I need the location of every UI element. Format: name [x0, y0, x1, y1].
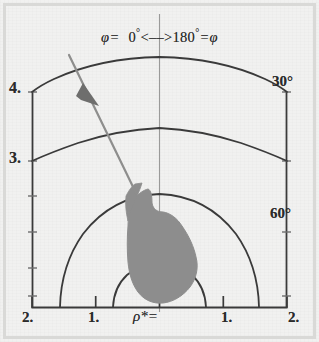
bottom-tick-label-4: 2. — [288, 310, 299, 325]
top-arrow-right: –> — [156, 29, 172, 45]
shaded-region — [127, 189, 197, 303]
right-tick-label-30: 30° — [272, 74, 293, 89]
top-phi-left: φ= — [101, 29, 119, 45]
top-value-left: 0 — [129, 29, 137, 45]
top-value-right: 180 — [172, 29, 195, 45]
right-tick-label-60: 60° — [270, 206, 291, 221]
direction-arrow-line — [69, 55, 136, 193]
top-angle-label: φ=0°<––>180°=φ — [101, 28, 218, 44]
left-tick-label-4: 4. — [9, 80, 21, 96]
left-tick-label-3: 3. — [9, 150, 21, 166]
direction-arrow-head — [76, 83, 99, 106]
polar-fan-plot — [0, 0, 319, 342]
top-phi-right: =φ — [200, 29, 218, 45]
bottom-axis-title: ρ*= — [133, 309, 158, 324]
bottom-tick-label-3: 1. — [221, 310, 232, 325]
top-arrow-left: <– — [140, 29, 156, 45]
bottom-tick-label-0: 2. — [22, 310, 33, 325]
bottom-tick-label-1: 1. — [88, 310, 99, 325]
figure-root: φ=0°<––>180°=φ 4. 3. 30° 60° 2. 1. ρ*= 1… — [0, 0, 319, 342]
